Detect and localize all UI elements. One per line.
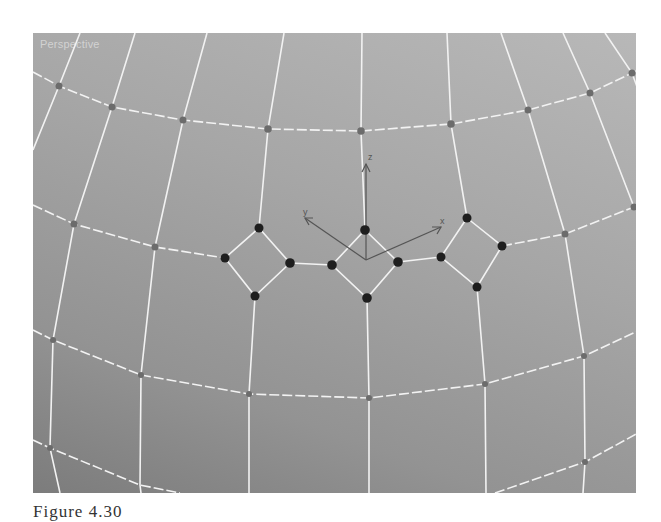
- figure-caption: Figure 4.30: [33, 502, 122, 522]
- gizmo-y-label: y: [303, 207, 308, 217]
- gizmo-x-axis[interactable]: [366, 227, 441, 260]
- gizmo-labels: x y z: [303, 152, 445, 226]
- mesh-latitude-lines: [33, 69, 640, 493]
- gizmo-z-label: z: [368, 152, 373, 162]
- transform-gizmo[interactable]: [305, 164, 441, 260]
- mesh-vertices[interactable]: [47, 70, 638, 466]
- gizmo-y-arrowhead: [305, 218, 313, 225]
- gizmo-x-label: x: [440, 216, 445, 226]
- mesh-longitude-lines: [33, 33, 640, 493]
